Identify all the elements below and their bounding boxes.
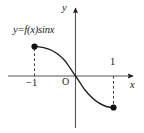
endpoint-dot-right bbox=[110, 104, 116, 110]
x-tick-label-positive-one: 1 bbox=[110, 57, 115, 68]
x-axis-label: x bbox=[130, 80, 135, 91]
function-curve bbox=[35, 47, 114, 108]
function-graph-figure: y=f(x)sinx y x O −1 1 bbox=[0, 0, 144, 133]
x-tick-label-negative-one: −1 bbox=[26, 78, 37, 89]
plot-canvas bbox=[0, 0, 144, 133]
curve-equation-label: y=f(x)sinx bbox=[13, 25, 54, 36]
origin-label: O bbox=[62, 77, 69, 87]
endpoint-dot-left bbox=[31, 43, 37, 49]
y-axis-label: y bbox=[62, 3, 67, 14]
